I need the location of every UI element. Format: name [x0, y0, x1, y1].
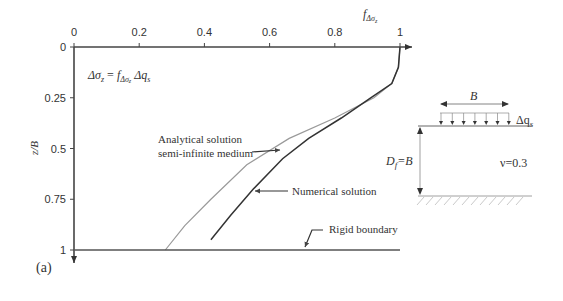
depth-arrow-up-icon	[417, 127, 423, 134]
hatch-mark	[426, 197, 433, 205]
load-arrow-head-icon	[439, 121, 443, 125]
y-tick-label: 0	[60, 41, 66, 53]
x-tick-label: 0.8	[327, 26, 342, 38]
rigid-pointer-arrow	[305, 230, 323, 247]
y-tick-label: 0.25	[45, 92, 66, 104]
hatch-mark	[453, 197, 460, 205]
x-tick-label: 0.2	[132, 26, 147, 38]
equation-label: Δσz = fΔσz Δqs	[87, 68, 150, 84]
panel-label: (a)	[36, 260, 52, 276]
hatch-mark	[516, 197, 523, 205]
depth-arrow-down-icon	[417, 188, 423, 195]
y-tick-label: 0.5	[51, 143, 66, 155]
y-tick-label: 1	[60, 244, 66, 256]
hatch-mark	[471, 197, 478, 205]
x-tick-label: 1	[397, 26, 403, 38]
analytical-pointer-arrow	[252, 150, 280, 152]
rigid-base-hatching	[417, 197, 523, 205]
load-arrows	[439, 113, 511, 125]
width-arrow-right-icon	[502, 101, 509, 107]
load-label: Δqs	[516, 113, 534, 129]
numerical-annotation: Numerical solution	[292, 185, 377, 197]
y-tick-labels: 00.250.50.751	[45, 41, 66, 256]
load-arrow-head-icon	[484, 121, 488, 125]
y-axis-title: z/B	[28, 141, 40, 156]
analytical-annotation-line2: semi-infinite medium	[158, 147, 253, 159]
analytical-annotation-line1: Analytical solution	[158, 133, 243, 145]
x-tick-label: 0	[71, 26, 77, 38]
load-arrow-head-icon	[462, 121, 466, 125]
x-tick-label: 0.4	[197, 26, 212, 38]
hatch-mark	[435, 197, 442, 205]
hatch-mark	[417, 197, 424, 205]
hatch-mark	[462, 197, 469, 205]
y-tick-label: 0.75	[45, 193, 66, 205]
width-label: B	[470, 89, 478, 103]
x-tick-labels: 00.20.40.60.81	[71, 26, 403, 38]
hatch-mark	[444, 197, 451, 205]
stress-influence-chart: 00.20.40.60.81 00.250.50.751 fΔσz z/B Δσ…	[0, 0, 563, 301]
hatch-mark	[498, 197, 505, 205]
load-arrow-head-icon	[507, 121, 511, 125]
x-axis-title: fΔσz	[363, 7, 378, 24]
hatch-mark	[489, 197, 496, 205]
x-tick-label: 0.6	[262, 26, 277, 38]
rigid-boundary-annotation: Rigid boundary	[329, 223, 398, 235]
depth-label: Df=B	[385, 154, 413, 170]
load-arrow-head-icon	[473, 121, 477, 125]
foundation-diagram: B Δqs Df=B ν=0.3	[385, 89, 534, 205]
hatch-mark	[480, 197, 487, 205]
load-arrow-head-icon	[496, 121, 500, 125]
hatch-mark	[507, 197, 514, 205]
load-arrow-head-icon	[450, 121, 454, 125]
width-arrow-left-icon	[440, 101, 447, 107]
poisson-ratio-label: ν=0.3	[500, 156, 527, 170]
